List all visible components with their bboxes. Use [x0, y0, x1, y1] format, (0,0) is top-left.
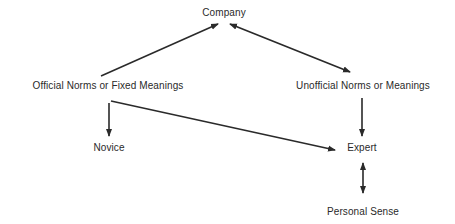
- node-personal-sense: Personal Sense: [327, 206, 399, 218]
- diagram-edges: [0, 0, 455, 224]
- node-novice: Novice: [93, 142, 124, 154]
- edge-official-to-company: [101, 24, 218, 76]
- node-unofficial-norms: Unofficial Norms or Meanings: [296, 80, 430, 92]
- node-expert: Expert: [347, 142, 377, 154]
- node-official-norms: Official Norms or Fixed Meanings: [33, 80, 184, 92]
- edge-company-unofficial: [230, 24, 350, 72]
- node-company: Company: [202, 7, 246, 19]
- edge-official-to-expert: [111, 101, 335, 150]
